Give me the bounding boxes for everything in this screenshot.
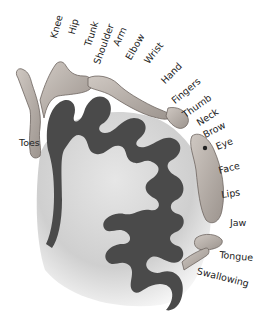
label-toes: Toes xyxy=(19,138,40,148)
eye-dot xyxy=(203,146,207,150)
label-jaw: Jaw xyxy=(230,218,246,228)
motor-homunculus-diagram: Knee Hip Trunk Shoulder Arm Elbow Wrist … xyxy=(0,0,268,323)
label-lips: Lips xyxy=(221,187,241,199)
